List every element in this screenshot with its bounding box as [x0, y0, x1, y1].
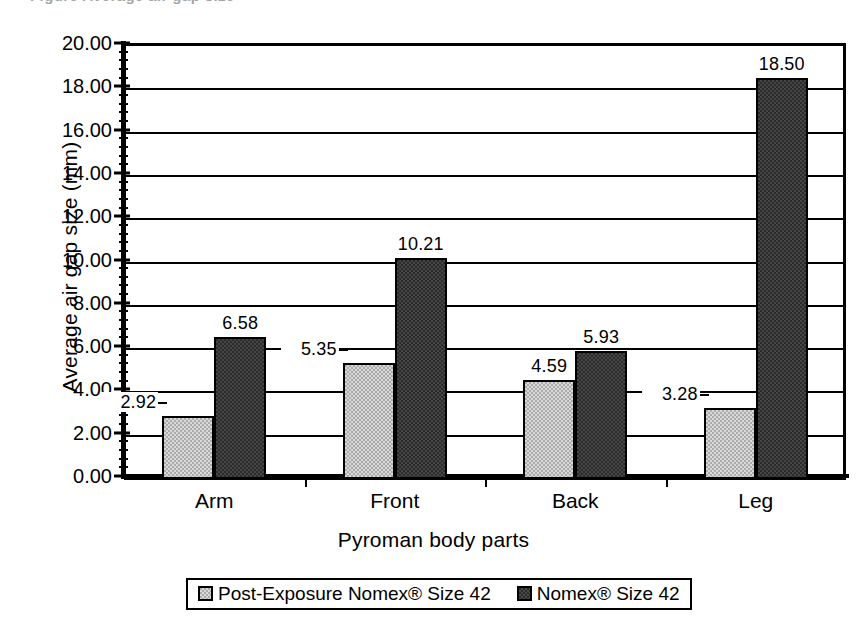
x-tick-label: Front	[370, 489, 419, 513]
x-tick-mark	[485, 476, 487, 487]
bar[interactable]	[523, 380, 575, 479]
bar[interactable]	[575, 351, 627, 479]
y-tick-label: 20.00	[0, 32, 112, 55]
x-tick-mark	[305, 476, 307, 487]
x-tick-label: Arm	[195, 489, 234, 513]
bar-value-label: 3.28	[642, 384, 700, 404]
gridline	[124, 132, 846, 134]
x-tick-label: Leg	[738, 489, 773, 513]
bar[interactable]	[756, 78, 808, 479]
bar[interactable]	[704, 408, 756, 479]
bar-value-label: 2.92	[100, 392, 158, 412]
bar-chart: Average air gap size (mm) 0.002.004.006.…	[0, 0, 867, 639]
bar-value-label: 10.21	[396, 234, 446, 254]
bar-value-label: 5.35	[281, 339, 339, 359]
bar[interactable]	[395, 258, 447, 479]
legend-item-label: Post-Exposure Nomex® Size 42	[218, 583, 491, 605]
legend-item-label: Nomex® Size 42	[537, 583, 680, 605]
dark-gray-swatch-icon	[517, 586, 532, 601]
bar-value-label: 4.59	[529, 356, 569, 376]
y-tick-label: 14.00	[0, 161, 112, 184]
x-tick-mark	[666, 476, 668, 487]
bar[interactable]	[214, 337, 266, 479]
bar-value-label: 18.50	[757, 54, 807, 74]
x-axis-title: Pyroman body parts	[0, 528, 867, 552]
bar[interactable]	[162, 416, 214, 479]
plot-area: 2.926.585.3510.214.595.933.2818.50	[124, 43, 846, 476]
y-tick-label: 12.00	[0, 205, 112, 228]
gridline	[124, 218, 846, 220]
bar-value-label: 6.58	[220, 313, 260, 333]
legend-item[interactable]: Nomex® Size 42	[517, 583, 680, 605]
gridline	[124, 88, 846, 90]
bar[interactable]	[343, 363, 395, 479]
bar-value-label: 5.93	[581, 327, 621, 347]
chart-legend: Post-Exposure Nomex® Size 42 Nomex® Size…	[186, 578, 692, 610]
gridline	[124, 175, 846, 177]
y-tick-label: 8.00	[0, 291, 112, 314]
light-gray-swatch-icon	[198, 586, 213, 601]
y-tick-label: 6.00	[0, 335, 112, 358]
gridline	[124, 305, 846, 307]
y-tick-label: 2.00	[0, 421, 112, 444]
y-tick-label: 0.00	[0, 465, 112, 488]
y-tick-label: 10.00	[0, 248, 112, 271]
x-tick-label: Back	[552, 489, 599, 513]
y-tick-label: 18.00	[0, 75, 112, 98]
y-tick-label: 16.00	[0, 118, 112, 141]
gridline	[124, 262, 846, 264]
y-tick-label: 4.00	[0, 378, 112, 401]
legend-item[interactable]: Post-Exposure Nomex® Size 42	[198, 583, 491, 605]
